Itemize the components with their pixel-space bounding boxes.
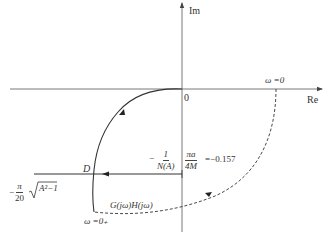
origin-label: 0 [184,93,189,103]
fraction-denominator: N(A) [157,161,175,171]
sqrt-content: A²−1 [39,184,58,193]
fraction-denominator: 4M [185,161,197,171]
equals-value-label: =−0.157 [205,155,235,164]
dashed-curve-arrow-icon [205,192,212,197]
left-expr-sign: − [9,188,14,197]
pi-a-over-4m-fraction: πa 4M [185,150,197,171]
curve-name-label: G(jω)H(jω) [110,201,153,210]
fraction-numerator: π [16,182,23,193]
nyquist-diagram [0,0,327,239]
neg-sign: − [149,154,154,163]
point-d-label: D [83,164,90,174]
omega-zero-plus-label: ω =0₊ [84,217,108,226]
pi-over-20-fraction: π 20 [15,182,24,203]
fraction-denominator: 20 [15,193,24,203]
real-axis-label: Re [307,95,318,105]
locus-arrow-icon [102,172,109,177]
fraction-numerator: 1 [163,150,170,161]
imag-axis-label: Im [189,6,200,16]
fraction-numerator: πa [185,150,196,161]
omega-zero-label: ω =0 [265,76,284,85]
neg-inverse-na-fraction: 1 N(A) [157,150,175,171]
